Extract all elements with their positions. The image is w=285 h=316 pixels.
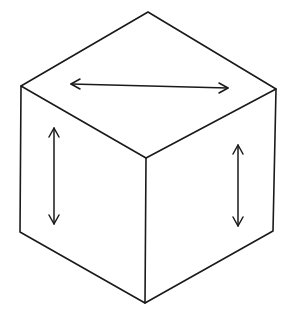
right-face-double-arrow-icon: [233, 145, 243, 226]
left-face-double-arrow-icon: [49, 128, 59, 224]
cube-right-face: [145, 89, 276, 303]
cube-diagram: Isometric cube with arrows on each visib…: [0, 0, 285, 316]
top-face-double-arrow-icon: [71, 79, 228, 93]
cube-left-face: [20, 86, 146, 303]
cube-drawing: [0, 0, 285, 316]
